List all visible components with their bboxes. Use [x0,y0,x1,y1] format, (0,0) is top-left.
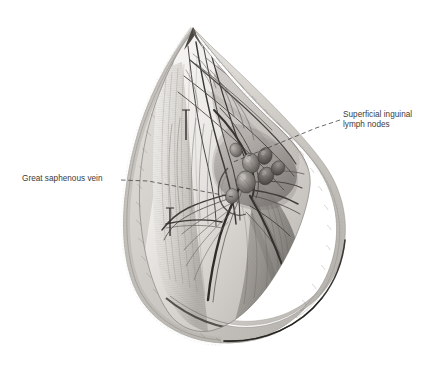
label-superficial-inguinal-lymph-nodes: Superficial inguinal lymph nodes [343,110,412,131]
label-lymph-nodes-line2: lymph nodes [343,120,412,130]
anatomical-figure: Superficial inguinal lymph nodes Great s… [0,0,446,366]
label-lymph-nodes-line1: Superficial inguinal [343,110,412,119]
label-great-saphenous-vein: Great saphenous vein [22,174,103,184]
label-saphenous-vein-line1: Great saphenous vein [22,174,103,183]
